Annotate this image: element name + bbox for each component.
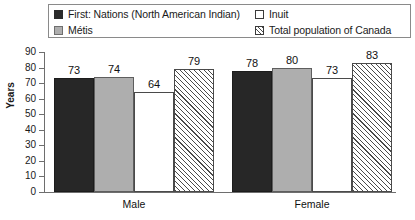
bar-value-label: 83 [352, 50, 392, 61]
bar-value-label: 64 [134, 79, 174, 90]
bar [134, 92, 174, 192]
x-axis-line [44, 192, 396, 193]
legend-column-left: First: Nations (North American Indian) M… [54, 5, 252, 37]
hatched-swatch-icon [255, 26, 264, 35]
y-axis-tick [39, 192, 44, 193]
y-axis-tick-label: 80 [10, 63, 36, 73]
y-axis-tick-label: 70 [10, 78, 36, 88]
y-axis-tick-label: 0 [10, 187, 36, 197]
bar [94, 77, 134, 192]
legend-item-metis: Métis [54, 22, 252, 38]
bar-value-label: 80 [272, 55, 312, 66]
bar [174, 69, 214, 192]
bar [272, 68, 312, 192]
bar-value-label: 78 [232, 58, 272, 69]
bar-value-label: 73 [54, 65, 94, 76]
gray-solid-swatch-icon [54, 26, 63, 35]
y-axis-tick-label: 60 [10, 94, 36, 104]
legend-item-inuit: Inuit [255, 6, 407, 22]
bar [312, 78, 352, 192]
chart-plot-area: Years 0102030405060708090 73746479788073… [0, 40, 415, 220]
bar [54, 78, 94, 192]
legend-label-metis: Métis [68, 24, 93, 36]
white-empty-swatch-icon [255, 10, 264, 19]
legend-column-right: Inuit Total population of Canada [255, 5, 407, 37]
x-axis-category-label: Male [54, 198, 214, 210]
dark-solid-swatch-icon [54, 10, 63, 19]
y-axis-tick-label: 30 [10, 140, 36, 150]
bar-value-label: 74 [94, 64, 134, 75]
bar-group-container: 7374647978807383 [44, 52, 396, 192]
bar-value-label: 79 [174, 56, 214, 67]
legend-label-total-population: Total population of Canada [269, 24, 391, 36]
y-axis-tick-label: 90 [10, 47, 36, 57]
bar-value-label: 73 [312, 65, 352, 76]
y-axis-tick-label: 10 [10, 171, 36, 181]
legend-label-inuit: Inuit [269, 8, 288, 20]
bar [232, 71, 272, 192]
y-axis-tick-label: 50 [10, 109, 36, 119]
legend-item-total-population: Total population of Canada [255, 22, 407, 38]
x-axis-category-label: Female [232, 198, 392, 210]
legend-item-first-nations: First: Nations (North American Indian) [54, 6, 252, 22]
y-axis-tick-label: 20 [10, 156, 36, 166]
legend-label-first-nations: First: Nations (North American Indian) [68, 8, 240, 20]
chart-legend: First: Nations (North American Indian) M… [48, 4, 411, 38]
bar [352, 63, 392, 192]
y-axis-tick-label: 40 [10, 125, 36, 135]
